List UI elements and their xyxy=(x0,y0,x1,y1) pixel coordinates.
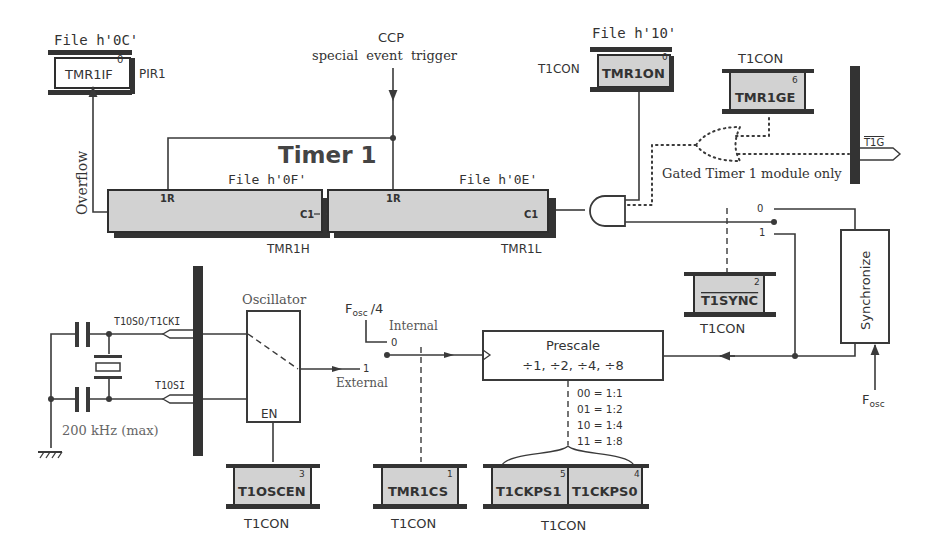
prescaler-table: 00 = 1:1 01 = 1:2 10 = 1:4 11 = 1:8 xyxy=(577,387,623,447)
prescale-row: 10 = 1:4 xyxy=(577,419,623,431)
tmr1cs-bit: TMR1CS xyxy=(388,484,448,499)
pir1-register: File h'0C' 0 TMR1IF PIR1 xyxy=(48,32,166,95)
t1osi-pin xyxy=(163,395,193,403)
tmr1on-bit: TMR1ON xyxy=(602,66,665,81)
oscillator-label: Oscillator xyxy=(242,292,307,307)
t1oscen-bit-number: 3 xyxy=(299,469,305,479)
tmr1h-file-label: File h'0F' xyxy=(228,172,306,187)
tmr1cs-bit-number: 1 xyxy=(447,469,453,479)
t1ckps1-bit: T1CKPS1 xyxy=(496,484,561,499)
prescale-row: 01 = 1:2 xyxy=(577,403,623,415)
tmr1ge-bit-number: 6 xyxy=(792,75,798,85)
t1g-pin-label: T1G xyxy=(863,137,884,148)
tmr1l-file-label: File h'0E' xyxy=(459,172,537,187)
pir1-label: PIR1 xyxy=(139,67,166,81)
oscillator-enable-label: EN xyxy=(261,407,278,421)
tmr1ge-bit: TMR1GE xyxy=(735,90,795,105)
oscillator-block xyxy=(247,311,300,422)
timer1-title: Timer 1 xyxy=(278,142,377,168)
tmr1h-label: TMR1H xyxy=(266,242,310,256)
t1sync-register: 2 T1SYNC T1CON xyxy=(684,272,776,336)
t1oscen-register: 3 T1OSCEN T1CON xyxy=(226,464,320,531)
sync-switch-0: 0 xyxy=(757,203,763,214)
prescaler-ratios: ÷1, ÷2, ÷4, ÷8 xyxy=(522,358,623,373)
t1oscen-t1con-label: T1CON xyxy=(243,516,289,531)
t1sync-t1con-label: T1CON xyxy=(699,321,745,336)
tmr1if-bit: TMR1IF xyxy=(64,67,113,82)
fosc4-wire xyxy=(366,320,387,342)
timer1-block-diagram: File h'0C' 0 TMR1IF PIR1 Overflow CCP sp… xyxy=(0,0,933,560)
t1g-pin-bar xyxy=(850,66,860,184)
tmr1on-t1con-label: T1CON xyxy=(537,62,580,76)
tmr1l-clock-pin: C1 xyxy=(524,209,538,220)
prescale-row: 00 = 1:1 xyxy=(577,387,623,399)
sync-in0-wire xyxy=(774,209,855,230)
t1sync-bit-number: 2 xyxy=(754,277,760,287)
t1osi-pin-label: T1OSI xyxy=(155,380,185,391)
tmr1cs-t1con-label: T1CON xyxy=(390,516,436,531)
external-label: External xyxy=(336,376,388,390)
or-gate-gated xyxy=(696,127,740,161)
tmr1on-file-label: File h'10' xyxy=(592,25,676,41)
t1oso-t1cki-pin-label: T1OSO/T1CKI xyxy=(114,316,180,327)
clock-switch-0: 0 xyxy=(391,337,397,348)
ccp-special-event-label: special event trigger xyxy=(312,48,458,63)
fosc4-label: Fosc/4 xyxy=(345,301,383,318)
tmr1cs-register: 1 TMR1CS T1CON xyxy=(373,464,467,531)
t1ckps0-bit-number: 4 xyxy=(634,469,640,479)
overflow-label: Overflow xyxy=(74,151,90,215)
sync-input-wire xyxy=(663,343,855,356)
t1ckps1-bit-number: 5 xyxy=(560,469,566,479)
tmr1ge-t1con-label: T1CON xyxy=(737,51,783,66)
sync-in1-wire xyxy=(774,234,795,356)
t1sync-bit: T1SYNC xyxy=(701,293,758,308)
synchronize-label: Synchronize xyxy=(858,251,873,330)
tmr1ge-register: T1CON 6 TMR1GE xyxy=(722,51,814,114)
internal-label: Internal xyxy=(389,319,438,333)
crystal-frequency-note: 200 kHz (max) xyxy=(62,423,159,438)
tmr1l-label: TMR1L xyxy=(500,242,542,256)
pin-bus-bar xyxy=(193,266,203,456)
ccp-label: CCP xyxy=(378,30,404,45)
t1g-pin-arrow xyxy=(860,148,900,160)
t1ckps-register: 5 T1CKPS1 4 T1CKPS0 T1CON xyxy=(483,464,649,533)
gated-timer-note: Gated Timer 1 module only xyxy=(662,166,842,181)
prescale-brace xyxy=(502,446,634,465)
prescaler-title: Prescale xyxy=(546,338,600,353)
and-gate xyxy=(590,196,625,226)
t1ckps0-bit: T1CKPS0 xyxy=(572,484,637,499)
sync-fosc-label: Fosc xyxy=(862,392,885,409)
tmr1h-clock-pin: C1 xyxy=(300,209,314,220)
tmr1on-bit-number: 0 xyxy=(662,52,668,62)
tmr1h-register: File h'0F' 1R C1 TMR1H xyxy=(108,172,330,256)
prescale-row: 11 = 1:8 xyxy=(577,435,623,447)
t1oso-pin xyxy=(163,330,193,338)
t1ckps-t1con-label: T1CON xyxy=(540,518,586,533)
sync-switch-1: 1 xyxy=(759,227,765,238)
tmr1l-register: File h'0E' 1R C1 TMR1L xyxy=(328,172,556,256)
clock-switch-1: 1 xyxy=(363,363,369,374)
t1oscen-bit: T1OSCEN xyxy=(238,484,306,499)
tmr1on-register: File h'10' T1CON 0 TMR1ON xyxy=(537,25,676,92)
tmr1h-reset-pin: 1R xyxy=(160,193,175,204)
tmr1if-bit-number: 0 xyxy=(117,54,123,65)
tmr1on-wire xyxy=(625,92,639,200)
tmr1l-reset-pin: 1R xyxy=(386,193,401,204)
overflow-wire xyxy=(93,87,108,212)
pir1-file-label: File h'0C' xyxy=(54,32,138,48)
